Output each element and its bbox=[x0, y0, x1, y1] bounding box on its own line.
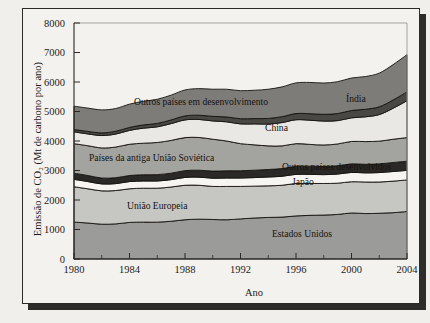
x-tick-label: 1980 bbox=[64, 264, 85, 275]
y-tick-label: 6000 bbox=[44, 77, 65, 88]
y-tick-label: 0 bbox=[60, 254, 65, 265]
x-tick-label: 2004 bbox=[397, 264, 419, 275]
x-tick-label: 2000 bbox=[341, 264, 362, 275]
band-label: Outros países em desenvolvimento bbox=[134, 96, 268, 107]
y-tick-label: 3000 bbox=[44, 165, 65, 176]
x-tick-label: 1988 bbox=[175, 264, 196, 275]
band-label: Índia bbox=[346, 93, 366, 104]
x-tick-label: 1996 bbox=[286, 264, 307, 275]
figure-root: 010002000300040005000600070008000 198019… bbox=[0, 0, 430, 323]
x-tick-label: 1992 bbox=[230, 264, 251, 275]
plot-wrapper: 010002000300040005000600070008000 198019… bbox=[23, 9, 421, 305]
band-label: China bbox=[265, 122, 289, 133]
y-tick-label: 2000 bbox=[44, 195, 65, 206]
y-tick-label: 5000 bbox=[44, 106, 65, 117]
figure-frame: 010002000300040005000600070008000 198019… bbox=[22, 8, 420, 304]
x-tick-label: 1984 bbox=[119, 264, 141, 275]
y-tick-labels: 010002000300040005000600070008000 bbox=[44, 18, 65, 265]
band-label: Japão bbox=[292, 176, 314, 187]
y-tick-label: 8000 bbox=[44, 18, 65, 29]
stacked-area-chart: 010002000300040005000600070008000 198019… bbox=[23, 9, 421, 305]
y-tick-label: 7000 bbox=[44, 47, 65, 58]
y-tick-label: 1000 bbox=[44, 224, 65, 235]
x-tick-labels: 1980198419881992199620002004 bbox=[64, 264, 419, 275]
band-label: Estados Unidos bbox=[272, 228, 332, 239]
band-label: Outros países desenvolvidos bbox=[282, 161, 392, 172]
y-axis-title: Emissão de CO₂ (Mt de carbono por ano) bbox=[32, 61, 44, 236]
band-label: União Europeia bbox=[127, 200, 188, 211]
band-label: Países da antiga União Soviética bbox=[89, 152, 215, 163]
x-axis-title: Ano bbox=[245, 287, 263, 298]
y-tick-label: 4000 bbox=[44, 136, 65, 147]
